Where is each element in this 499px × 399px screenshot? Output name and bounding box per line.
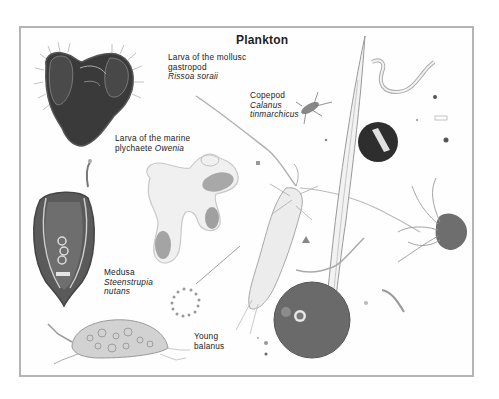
- polychaete-larva-illustration: [147, 154, 238, 263]
- plate-title: Plankton: [236, 33, 288, 47]
- polychaete-label-prefix: plychaete: [115, 143, 155, 153]
- copepod-label: Copepod Calanus tinmarchicus: [250, 91, 299, 120]
- gastropod-label: Larva of the mollusc gastropod Rissoa so…: [168, 53, 246, 82]
- polychaete-label: Larva of the marine plychaete Owenia: [115, 134, 190, 153]
- gastropod-larva-illustration: [34, 42, 144, 146]
- polychaete-species: Owenia: [155, 143, 184, 153]
- copepod-species: tinmarchicus: [250, 109, 299, 119]
- copepod-genus: Calanus: [250, 100, 282, 110]
- balanus-label: Young balanus: [194, 332, 224, 351]
- medusa-genus: Steenstrupia: [104, 277, 153, 287]
- plankton-illustration: [0, 0, 499, 399]
- round-egg-illustration: [274, 282, 350, 358]
- medusa-illustration: [34, 159, 95, 306]
- jellyfish-illustration: [398, 178, 467, 262]
- medusa-species: nutans: [104, 286, 130, 296]
- worm-illustration: [372, 60, 434, 92]
- small-copepod-illustration: [296, 92, 332, 124]
- balanus-label-line2: balanus: [194, 342, 224, 352]
- crab-larva-illustration: [48, 320, 190, 364]
- gastropod-species: Rissoa soraii: [168, 71, 218, 81]
- dark-sphere-illustration: [358, 122, 398, 162]
- medusa-label: Medusa Steenstrupia nutans: [104, 268, 153, 297]
